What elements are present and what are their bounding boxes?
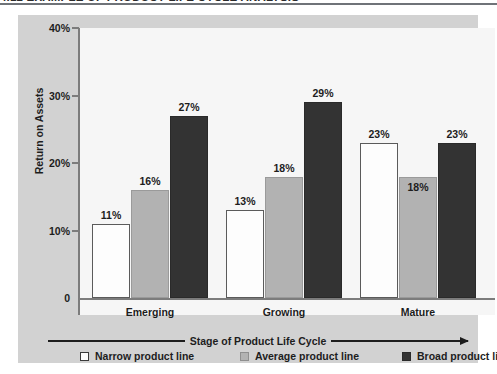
y-axis-tick-label: 40% — [26, 22, 70, 34]
bar-value-label: 23% — [446, 128, 467, 140]
bar-mature-broad[interactable]: 23% — [438, 143, 476, 298]
legend-swatch-icon — [80, 352, 89, 361]
bar-emerging-narrow[interactable]: 11% — [92, 224, 130, 298]
bar-value-label: 18% — [273, 162, 294, 174]
group-label-emerging: Emerging — [72, 306, 228, 318]
bar-mature-narrow[interactable]: 23% — [360, 143, 398, 298]
bar-growing-narrow[interactable]: 13% — [226, 210, 264, 298]
title-divider — [0, 3, 497, 5]
bar-value-label: 11% — [101, 209, 121, 221]
y-axis-tick-label: 0 — [26, 292, 70, 304]
y-axis-tick — [72, 230, 79, 232]
legend-item-narrow[interactable]: Narrow product line — [80, 350, 194, 362]
y-axis-tick-label: 10% — [26, 225, 70, 237]
x-axis-title-row: Stage of Product Life Cycle — [48, 335, 468, 347]
bar-value-label: 13% — [234, 195, 255, 207]
legend-swatch-icon — [240, 352, 249, 361]
bar-value-label: 27% — [178, 101, 199, 113]
y-axis-tick — [72, 27, 79, 29]
bar-growing-average[interactable]: 18% — [265, 177, 303, 299]
x-axis-title: Stage of Product Life Cycle — [190, 335, 327, 347]
legend-label: Average product line — [255, 350, 359, 362]
x-axis-line — [78, 298, 495, 300]
figure-page: 4.12 EXAMPLE OF PRODUCT LIFE CYCLE ANALY… — [0, 0, 497, 374]
bar-emerging-broad[interactable]: 27% — [170, 116, 208, 298]
bar-mature-average[interactable]: 18% — [399, 177, 437, 299]
y-axis-line — [78, 28, 80, 315]
bar-value-label: 18% — [407, 181, 428, 193]
y-axis-tick-label: 30% — [26, 90, 70, 102]
group-label-mature: Mature — [340, 306, 496, 318]
y-axis-tick-label: 20% — [26, 157, 70, 169]
y-axis-tick — [72, 162, 79, 164]
legend-label: Broad product line — [417, 350, 497, 362]
x-axis-arrow-left — [48, 340, 185, 342]
y-axis-tick — [72, 95, 79, 97]
bar-value-label: 29% — [312, 87, 333, 99]
legend-swatch-icon — [402, 352, 411, 361]
bar-growing-broad[interactable]: 29% — [304, 102, 342, 298]
bar-emerging-average[interactable]: 16% — [131, 190, 169, 298]
legend-item-broad[interactable]: Broad product line — [402, 350, 497, 362]
chart-panel: Return on Assets 40%30%20%10%0 11%16%27%… — [18, 15, 478, 363]
group-label-growing: Growing — [206, 306, 362, 318]
bar-value-label: 23% — [368, 128, 389, 140]
bar-value-label: 16% — [139, 175, 160, 187]
legend-label: Narrow product line — [95, 350, 194, 362]
legend-item-average[interactable]: Average product line — [240, 350, 359, 362]
x-axis-arrow-right — [331, 340, 468, 342]
